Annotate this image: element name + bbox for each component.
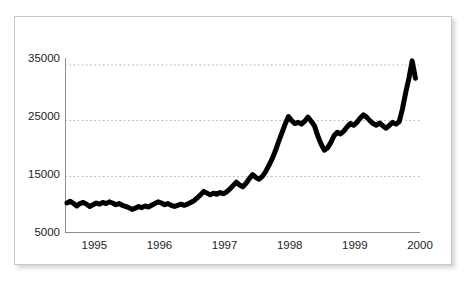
y-tick-label: 5000 bbox=[8, 226, 60, 238]
figure-root: 3500025000150005000 19951996199719981999… bbox=[0, 0, 466, 285]
x-tick-label: 1997 bbox=[195, 239, 255, 251]
x-tick-label: 1995 bbox=[64, 239, 124, 251]
x-tick-label: 1996 bbox=[129, 239, 189, 251]
y-tick-label: 15000 bbox=[8, 168, 60, 180]
x-tick-label: 2000 bbox=[390, 239, 450, 251]
x-tick-label: 1999 bbox=[325, 239, 385, 251]
x-tick-label: 1998 bbox=[260, 239, 320, 251]
y-tick-label: 35000 bbox=[8, 52, 60, 64]
y-tick-label: 25000 bbox=[8, 110, 60, 122]
data-series-line bbox=[67, 61, 415, 209]
